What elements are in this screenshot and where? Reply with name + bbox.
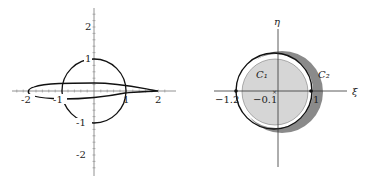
point-label: −1.2 <box>215 94 239 105</box>
c1-label: C₁ <box>256 69 268 80</box>
x-tick-label: 2 <box>155 94 161 105</box>
right-plot: × η ξ C₁ C₂ −1.2 −0.1 1 <box>214 16 358 167</box>
x-tick-label: 1 <box>123 94 129 105</box>
point-label: 1 <box>313 94 319 105</box>
point-label: −0.1 <box>253 94 277 105</box>
xi-axis-label: ξ <box>352 86 358 97</box>
y-tick-label: -2 <box>76 149 86 160</box>
x-tick-label: -1 <box>53 94 63 105</box>
y-tick-label: 1 <box>85 53 91 64</box>
x-tick-label: -2 <box>21 94 31 105</box>
c2-label: C₂ <box>318 69 330 80</box>
point-1 <box>309 89 313 93</box>
left-plot: -2 -1 1 2 2 1 -1 -2 <box>12 8 176 176</box>
y-tick-label: -1 <box>76 117 86 128</box>
eta-axis-label: η <box>274 16 280 27</box>
y-tick-label: 2 <box>85 21 91 32</box>
diagram-canvas: -2 -1 1 2 2 1 -1 -2 × η ξ C₁ C₂ −1.2 −0.… <box>0 0 365 183</box>
point-minus-1-2 <box>234 89 238 93</box>
